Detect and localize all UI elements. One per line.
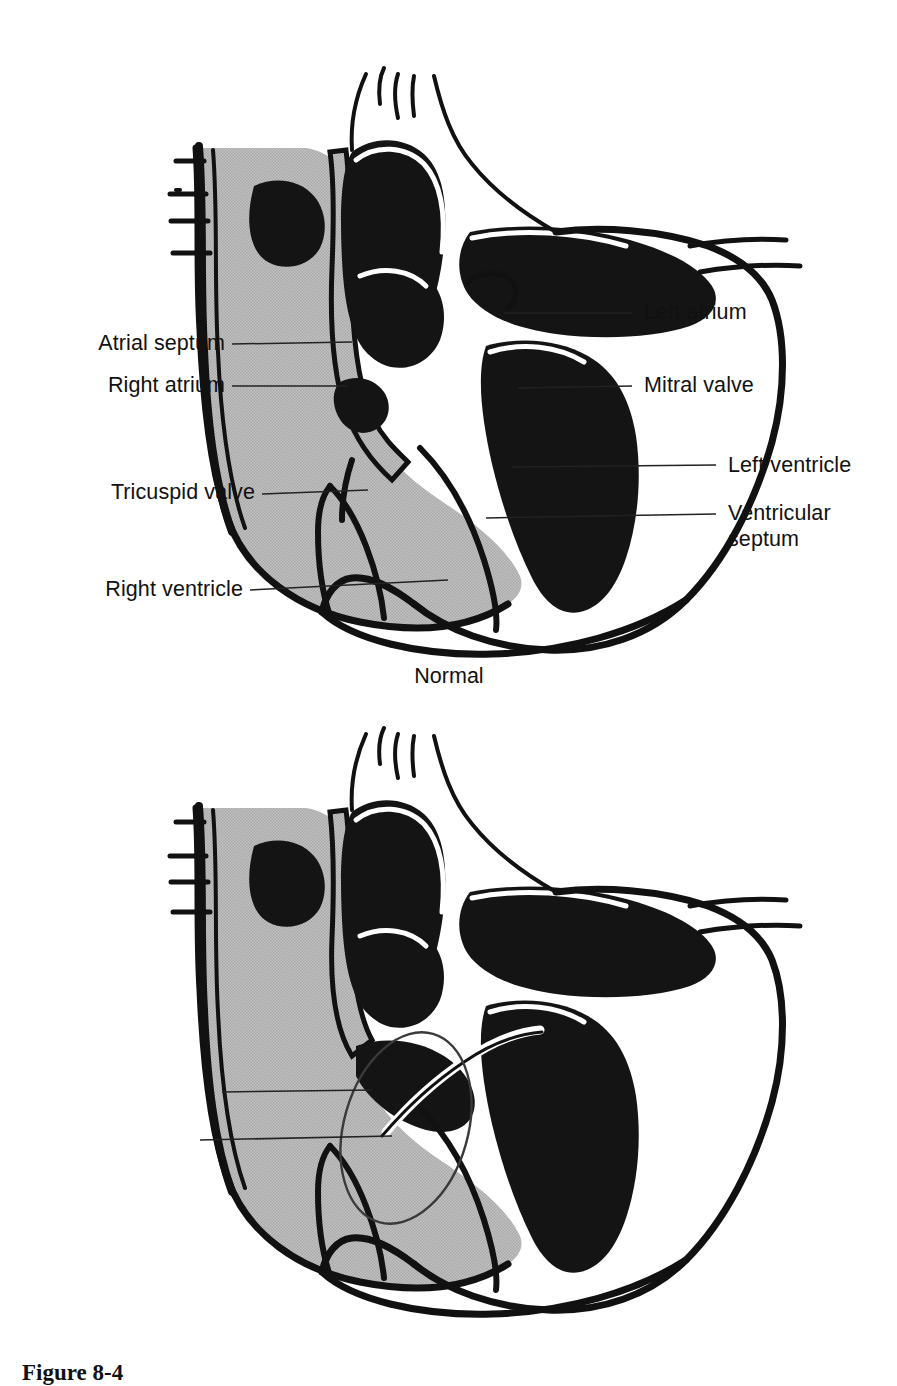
label-ventricular-septum: Ventricular septum [728,500,831,552]
diagram-defect-heart: A.V. canal defect Common valve Defect [0,700,897,1340]
label-tricuspid-valve: Tricuspid valve [0,479,255,505]
defect-heart-illustration [0,700,897,1340]
label-left-atrium: Left atrium [644,299,747,325]
label-right-ventricle: Right ventricle [0,576,243,602]
figure-heart-av-canal: Atrial septum Right atrium Tricuspid val… [0,0,897,1386]
label-atrial-septum: Atrial septum [0,330,225,356]
label-left-ventricle: Left ventricle [728,452,851,478]
label-mitral-valve: Mitral valve [644,372,754,398]
diagram-normal-heart: Atrial septum Right atrium Tricuspid val… [0,0,897,706]
label-right-atrium: Right atrium [0,372,225,398]
figure-caption: Figure 8-4 [22,1360,123,1386]
panel-caption-normal: Normal [349,664,549,689]
